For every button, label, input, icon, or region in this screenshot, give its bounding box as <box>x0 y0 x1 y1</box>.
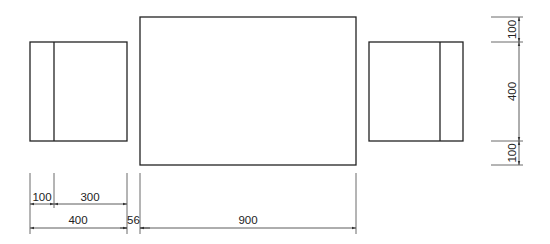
dim-400-bottom: 400 <box>68 214 87 226</box>
dim-100-left: 100 <box>32 191 51 203</box>
technical-drawing: 100 300 400 56 900 100 400 100 <box>0 0 550 244</box>
dim-100-bottom: 100 <box>506 143 518 162</box>
dim-100-top: 100 <box>506 20 518 39</box>
left-chair-box <box>30 42 127 141</box>
dim-56: 56 <box>127 214 140 226</box>
dim-400-right: 400 <box>506 82 518 101</box>
right-chair-box <box>369 42 463 141</box>
dim-300: 300 <box>80 191 99 203</box>
dim-900: 900 <box>238 214 257 226</box>
table-box <box>140 17 356 165</box>
